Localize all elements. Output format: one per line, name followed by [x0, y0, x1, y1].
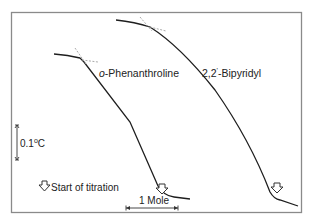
- amount-scale-bar: [126, 206, 178, 211]
- label-bipyridyl: 2,2'-Bipyridyl: [202, 67, 261, 79]
- curve-bipyridyl: [116, 17, 298, 206]
- legend-label: Start of titration: [51, 182, 119, 193]
- label-o-phenanthroline: o-Phenanthroline: [99, 67, 179, 79]
- temperature-scale-bar: [15, 125, 19, 160]
- hollow-down-arrow-icon: [271, 183, 283, 193]
- amount-scale-label: 1 Mole: [139, 195, 169, 206]
- titration-diagram: o-Phenanthroline 2,2'-Bipyridyl 0.1oC St…: [0, 0, 311, 223]
- tangent-line: [75, 48, 86, 64]
- temperature-scale-label: 0.1oC: [20, 137, 45, 149]
- legend-hollow-down-arrow-icon: [39, 181, 50, 191]
